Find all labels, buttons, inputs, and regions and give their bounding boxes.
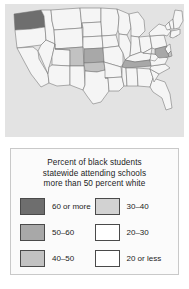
legend-label: 20 or less bbox=[127, 254, 162, 263]
united-states-map bbox=[5, 4, 184, 137]
legend-item: 40–50 bbox=[20, 250, 95, 267]
legend-swatch bbox=[95, 250, 120, 267]
legend-label: 30–40 bbox=[127, 202, 149, 211]
map-state-ks bbox=[84, 48, 104, 63]
map-state-ma bbox=[170, 29, 180, 38]
legend-items: 60 or more30–4050–6020–3040–5020 or less bbox=[11, 193, 178, 271]
map-state-wa bbox=[14, 10, 45, 30]
legend-title-line-2: statewide attending schools bbox=[17, 169, 172, 180]
map-state-al bbox=[126, 68, 138, 86]
map-state-mt bbox=[51, 8, 82, 30]
legend-label: 60 or more bbox=[52, 202, 91, 211]
legend-swatch bbox=[20, 224, 45, 241]
choropleth-figure: Percent of black students statewide atte… bbox=[0, 0, 189, 289]
map-state-wi bbox=[117, 9, 131, 35]
map-state-wy bbox=[54, 28, 83, 49]
map-state-mi bbox=[129, 12, 145, 37]
legend-title-line-1: Percent of black students bbox=[17, 158, 172, 169]
legend-item: 30–40 bbox=[95, 198, 170, 215]
map-state-mn bbox=[101, 8, 119, 36]
legend-panel: Percent of black students statewide atte… bbox=[10, 148, 179, 275]
map-state-fl bbox=[150, 78, 172, 110]
map-state-nm bbox=[70, 66, 85, 90]
legend-label: 20–30 bbox=[127, 228, 149, 237]
map-state-ok bbox=[84, 62, 105, 72]
legend-item: 50–60 bbox=[20, 224, 95, 241]
legend-title: Percent of black students statewide atte… bbox=[11, 149, 178, 190]
map-state-me bbox=[173, 10, 183, 29]
legend-swatch bbox=[20, 198, 45, 215]
legend-label: 40–50 bbox=[52, 254, 74, 263]
map-state-ne bbox=[83, 36, 103, 49]
map-state-az bbox=[48, 65, 70, 86]
map-panel bbox=[5, 4, 184, 137]
legend-label: 50–60 bbox=[52, 228, 74, 237]
legend-title-line-3: more than 50 percent white bbox=[17, 179, 172, 190]
map-state-sd bbox=[82, 22, 102, 37]
legend-swatch bbox=[95, 198, 120, 215]
legend-swatch bbox=[95, 224, 120, 241]
legend-item: 20 or less bbox=[95, 250, 170, 267]
legend-swatch bbox=[20, 250, 45, 267]
legend-item: 20–30 bbox=[95, 224, 170, 241]
legend-item: 60 or more bbox=[20, 198, 95, 215]
states-layer bbox=[14, 8, 183, 110]
